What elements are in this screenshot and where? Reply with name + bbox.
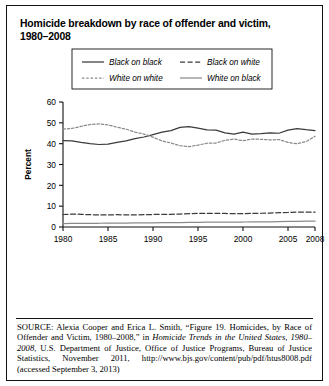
series-line-white-on-white xyxy=(63,124,315,147)
legend-label: White on white xyxy=(109,74,163,83)
legend-label: Black on white xyxy=(207,58,260,67)
source-note: SOURCE: Alexia Cooper and Erica L. Smith… xyxy=(16,318,313,374)
legend-label: Black on black xyxy=(109,58,163,67)
figure-title-line-2: 1980–2008 xyxy=(20,30,313,43)
figure-container: Homicide breakdown by race of offender a… xyxy=(0,0,329,386)
y-tick-label: 50 xyxy=(47,118,57,128)
x-tick-label: 1995 xyxy=(189,234,208,244)
figure-title-line-1: Homicide breakdown by race of offender a… xyxy=(20,17,313,30)
series-line-white-on-black xyxy=(63,221,315,224)
y-tick-label: 30 xyxy=(47,160,57,170)
x-tick-label: 2008 xyxy=(306,234,325,244)
source-text: SOURCE: Alexia Cooper and Erica L. Smith… xyxy=(17,322,312,374)
legend-label: White on black xyxy=(207,74,262,83)
y-tick-label: 40 xyxy=(47,139,57,149)
chart-legend: Black on blackBlack on whiteWhite on whi… xyxy=(72,49,272,89)
series-line-black-on-white xyxy=(63,212,315,215)
source-label: SOURCE: xyxy=(17,322,53,332)
y-tick-label: 10 xyxy=(47,201,57,211)
y-tick-label: 0 xyxy=(51,222,56,232)
chart-series xyxy=(63,124,315,224)
y-tick-label: 20 xyxy=(47,181,57,191)
x-tick-label: 2005 xyxy=(279,234,298,244)
line-chart: Black on blackBlack on whiteWhite on whi… xyxy=(16,47,327,285)
source-part-2: , U.S. Department of Justice, Office of … xyxy=(17,343,312,374)
x-tick-label: 1985 xyxy=(99,234,118,244)
x-tick-label: 1990 xyxy=(144,234,163,244)
figure-title: Homicide breakdown by race of offender a… xyxy=(20,6,313,43)
x-tick-label: 2000 xyxy=(234,234,253,244)
source-divider xyxy=(16,318,313,319)
series-line-black-on-black xyxy=(63,127,315,145)
y-axis-label: Percent xyxy=(23,149,33,180)
chart-area: Black on blackBlack on whiteWhite on whi… xyxy=(16,47,313,285)
x-tick-label: 1980 xyxy=(54,234,73,244)
y-tick-label: 60 xyxy=(47,97,57,107)
